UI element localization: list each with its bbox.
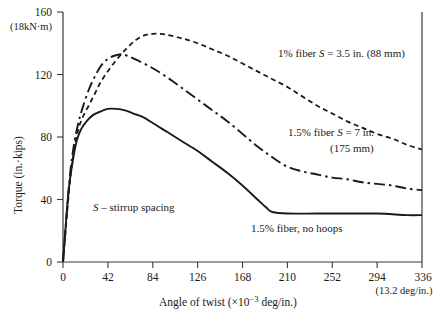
chart-page: 160 (18kN·m) 120 80 40 0 Torque (in.·kip… [0,0,440,313]
y-tick-label-120: 120 [35,69,53,81]
y-tick-label-0: 0 [46,256,52,268]
annotation-15pct-fiber-s7-line2: (175 mm) [330,142,374,155]
annotation-stirrup-text: – stirrup spacing [99,201,176,213]
x-tick-label-336: 336 [414,271,432,283]
annotation-1pct-fiber: 1% fiber S = 3.5 in. (88 mm) [278,47,405,60]
annotation-1pct-prefix: 1% fiber [278,47,319,59]
x-tick-label-0: 0 [60,271,66,283]
x-axis-title-exponent: −3 [250,294,259,304]
x-tick-label-210: 210 [279,271,297,283]
x-axis-title: Angle of twist (×10−3 deg/in.) [159,294,297,309]
annotation-1pct-suffix: = 3.5 in. (88 mm) [324,47,405,60]
x-tick-label-84: 84 [147,271,159,283]
x-tick-label-42: 42 [102,271,114,283]
y-axis-title: Torque (in.·kips) [12,136,25,214]
x-tick-label-294: 294 [368,271,386,283]
series-line-15pct-fiber-s7 [63,54,422,262]
x-tick-label-252: 252 [324,271,342,283]
x-tick-label-168: 168 [234,271,252,283]
annotation-15pct-no-hoops: 1.5% fiber, no hoops [251,222,343,234]
annotation-15pct-fiber-s7: 1.5% fiber S = 7 in. [288,126,374,138]
y-tick-label-40: 40 [41,194,53,206]
annotation-15pct-prefix: 1.5% fiber [288,126,337,138]
x-axis-title-main: Angle of twist (×10 [159,296,250,309]
y-tick-sublabel-kNm: (18kN·m) [10,21,52,33]
x-axis-title-tail: deg/in.) [259,296,297,309]
torque-twist-chart: 160 (18kN·m) 120 80 40 0 Torque (in.·kip… [0,0,440,313]
annotation-stirrup-key: S – stirrup spacing [93,201,175,213]
x-tick-sublabel-degin: (13.2 deg/in.) [376,285,433,297]
y-tick-label-80: 80 [41,131,53,143]
annotation-15pct-suffix: = 7 in. [343,126,375,138]
y-tick-label-160: 160 [35,6,53,18]
x-tick-label-126: 126 [189,271,207,283]
